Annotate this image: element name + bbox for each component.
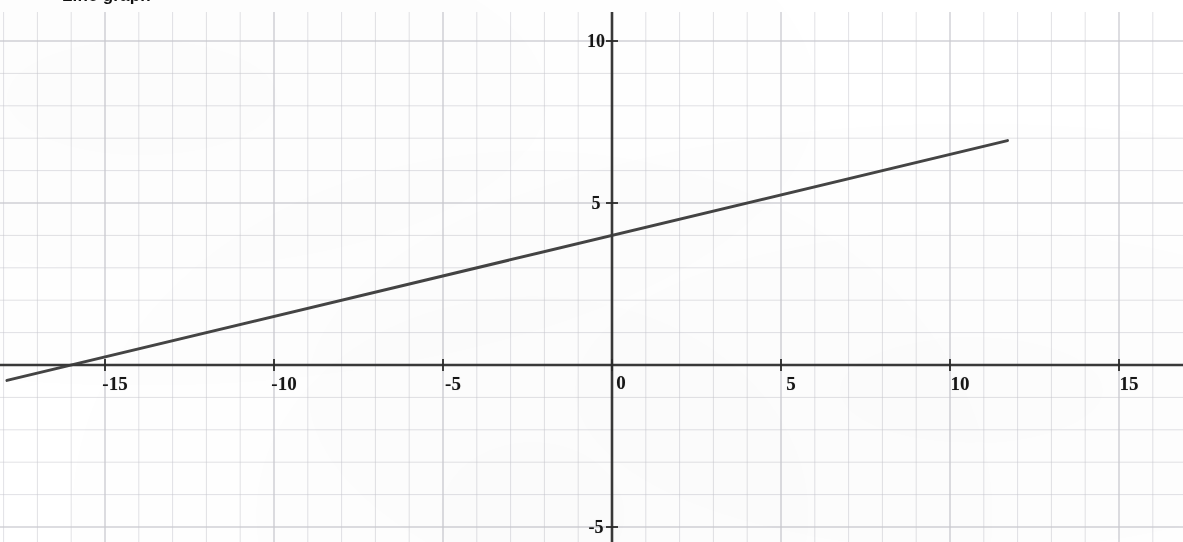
data-line: [7, 141, 1007, 381]
x-tick-label-5: 5: [786, 373, 796, 395]
x-tick-label-neg10: -10: [271, 373, 296, 395]
origin-label: 0: [616, 372, 626, 394]
x-tick-label-15: 15: [1120, 373, 1139, 395]
y-tick-label-10: 10: [587, 31, 605, 52]
graph-screenshot: Line graph -15-10-5051015-5510: [0, 0, 1183, 542]
y-tick-label-5: 5: [592, 193, 601, 214]
x-tick-label-neg15: -15: [102, 373, 127, 395]
minor-gridlines: [0, 12, 1183, 542]
y-tick-label-neg5: -5: [589, 517, 604, 538]
graph-svg: [0, 0, 1183, 542]
x-tick-label-neg5: -5: [445, 373, 461, 395]
graph-canvas: [0, 0, 1183, 542]
x-tick-label-10: 10: [951, 373, 970, 395]
